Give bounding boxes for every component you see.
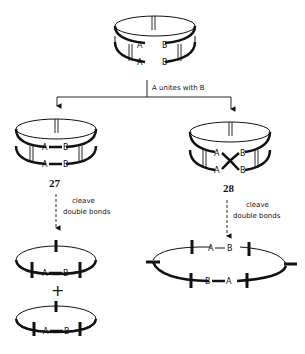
product-ring-1: A B: [16, 240, 96, 278]
product-large-ring: A B B A: [146, 240, 297, 288]
label-28-b-upper: B: [240, 149, 246, 158]
cleave-label-left-2: double bonds: [63, 208, 111, 216]
label-large-b-bottom: B: [205, 277, 211, 286]
compound-number-27: 27: [49, 177, 61, 189]
label-28-b-lower: B: [240, 166, 246, 175]
label-large-b-top: B: [227, 244, 233, 253]
reaction-diagram: A B A B A unites with B A B A B 27 cleav…: [0, 0, 305, 354]
compound-number-28: 28: [223, 182, 235, 194]
label-product2-a: A: [43, 327, 49, 336]
cleave-label-right-2: double bonds: [233, 212, 281, 220]
cleave-arrow-right: cleave double bonds: [227, 200, 281, 236]
cleave-label-right-1: cleave: [246, 201, 269, 209]
label-27-a-upper: A: [42, 143, 48, 152]
compound-28-ring: A B A B: [190, 122, 270, 175]
branch-arrows: A unites with B: [57, 80, 231, 109]
label-large-a-top: A: [208, 244, 214, 253]
plus-sign: +: [51, 281, 64, 300]
label-28-a-lower: A: [214, 166, 220, 175]
label-product1-a: A: [42, 269, 48, 278]
label-a-lower: A: [137, 58, 143, 67]
cleave-label-left-1: cleave: [72, 197, 95, 205]
step-label-a-unites-with-b: A unites with B: [152, 84, 205, 92]
label-b-upper: B: [162, 41, 168, 50]
starting-double-ring: A B A B: [115, 16, 195, 67]
cleave-arrow-left: cleave double bonds: [56, 194, 111, 228]
product-ring-2: A B: [16, 301, 96, 336]
label-product2-b: B: [64, 327, 70, 336]
label-b-lower: B: [162, 58, 168, 67]
label-27-a-lower: A: [42, 160, 48, 169]
label-27-b-upper: B: [63, 143, 69, 152]
compound-27-ring: A B A B: [16, 119, 96, 169]
label-product1-b: B: [63, 269, 69, 278]
label-28-a-upper: A: [214, 149, 220, 158]
label-a-upper: A: [137, 41, 143, 50]
label-large-a-bottom: A: [226, 277, 232, 286]
label-27-b-lower: B: [63, 160, 69, 169]
